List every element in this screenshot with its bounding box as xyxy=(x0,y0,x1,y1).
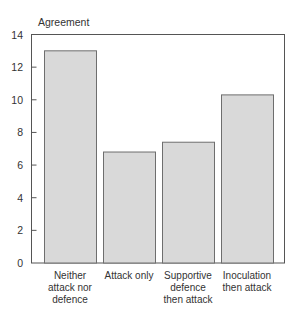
bars xyxy=(45,51,274,263)
x-category-label: then attack xyxy=(164,294,214,305)
x-axis-category-labels: Neitherattack nordefenceAttack onlySuppo… xyxy=(48,270,272,305)
bar xyxy=(222,95,274,263)
y-tick-label: 12 xyxy=(11,61,23,73)
bar-chart: Agreement 02468101214 Neitherattack nord… xyxy=(0,0,301,317)
y-tick-label: 6 xyxy=(17,159,23,171)
y-axis-title: Agreement xyxy=(38,16,89,28)
y-tick-label: 10 xyxy=(11,94,23,106)
x-category-label: Attack only xyxy=(105,270,154,281)
x-category-label: Neither xyxy=(54,270,87,281)
x-category-label: Supportive xyxy=(164,270,212,281)
bar xyxy=(163,142,215,263)
y-tick-label: 4 xyxy=(17,192,23,204)
y-axis-ticks: 02468101214 xyxy=(11,29,36,270)
x-category-label: defence xyxy=(52,294,88,305)
x-category-label: then attack xyxy=(223,282,273,293)
bar xyxy=(45,51,97,263)
y-tick-label: 14 xyxy=(11,29,23,41)
y-tick-label: 2 xyxy=(17,224,23,236)
x-category-label: defence xyxy=(170,282,206,293)
y-tick-label: 8 xyxy=(17,126,23,138)
y-tick-label: 0 xyxy=(17,257,23,269)
bar xyxy=(104,152,156,263)
x-category-label: Inoculation xyxy=(223,270,271,281)
x-category-label: attack nor xyxy=(48,282,93,293)
